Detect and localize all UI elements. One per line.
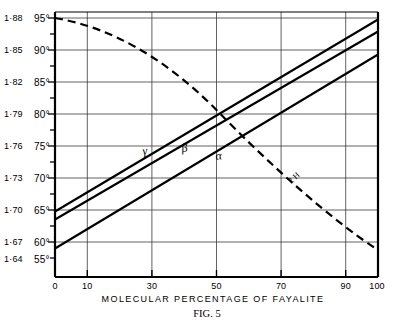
ri-label-6: 1·70 [4, 205, 23, 215]
xtick-label-50: 50 [211, 281, 221, 291]
curve-label-alpha: α [214, 148, 223, 163]
xtick-label-70: 70 [276, 281, 286, 291]
xtick-label-10: 10 [82, 281, 92, 291]
xtick-label-0: 0 [52, 281, 57, 291]
angle-label-0: 95° [34, 13, 50, 24]
angle-label-1: 90° [34, 45, 50, 56]
angle-tick-labels: 95° 90° 85° 80° 75° 70° 65° 60° 55° [34, 13, 50, 265]
ri-label-1: 1·85 [4, 45, 23, 55]
chart-canvas: 1·88 1·85 1·82 1·79 1·76 1·73 1·70 1·67 … [0, 0, 394, 322]
angle-label-6: 65° [34, 205, 50, 216]
ri-label-7: 1·67 [4, 237, 23, 247]
vertical-gridlines [87, 12, 345, 277]
angle-label-8: 55° [34, 254, 50, 265]
curve-label-2h: 2 H [286, 170, 302, 186]
angle-label-2: 85° [34, 77, 50, 88]
angle-label-3: 80° [34, 109, 50, 120]
figure-caption: FIG. 5 [193, 308, 220, 319]
ri-label-8: 1·64 [4, 254, 23, 264]
x-tick-labels: 0 10 30 50 70 90 100 [52, 281, 384, 291]
ri-label-2: 1·82 [4, 77, 23, 87]
x-axis-title: MOLECULAR PERCENTAGE OF FAYALITE [102, 294, 325, 304]
angle-label-4: 75° [34, 141, 50, 152]
ri-label-5: 1·73 [4, 173, 23, 183]
refractive-index-tick-labels: 1·88 1·85 1·82 1·79 1·76 1·73 1·70 1·67 … [4, 13, 23, 264]
angle-label-7: 60° [34, 237, 50, 248]
ri-label-3: 1·79 [4, 109, 23, 119]
ri-label-0: 1·88 [4, 13, 23, 23]
ri-label-4: 1·76 [4, 141, 23, 151]
xtick-label-30: 30 [147, 281, 157, 291]
figure-olivine-optical-properties: 1·88 1·85 1·82 1·79 1·76 1·73 1·70 1·67 … [0, 0, 394, 322]
angle-label-5: 70° [34, 173, 50, 184]
xtick-label-90: 90 [340, 281, 350, 291]
xtick-label-100: 100 [369, 281, 385, 291]
curve-label-gamma: γ [141, 143, 148, 158]
